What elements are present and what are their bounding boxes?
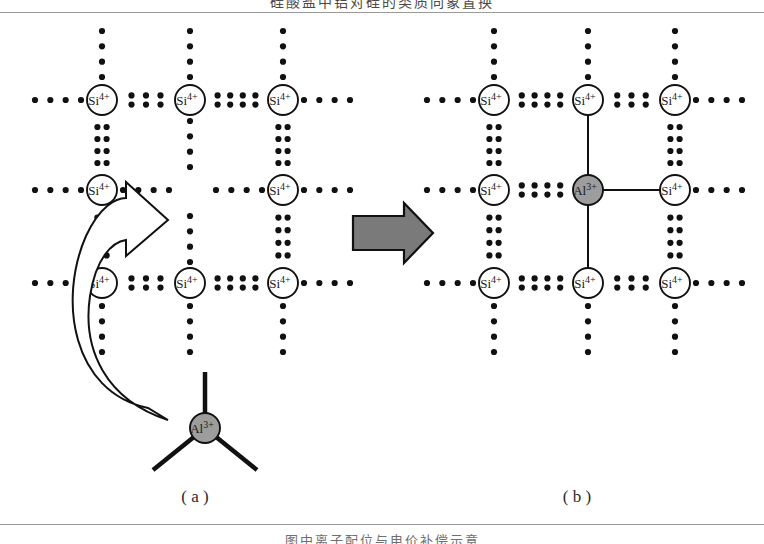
atom-si[interactable]: Si4+ <box>268 268 298 298</box>
bond-dot <box>677 160 683 166</box>
dotted-bond-tail-vertical <box>585 28 591 80</box>
atom-si[interactable]: Si4+ <box>479 268 509 298</box>
bond-dot <box>275 124 281 130</box>
dotted-bond-tail-vertical <box>280 303 286 355</box>
bond-dot <box>128 275 134 281</box>
bond-dot <box>585 59 591 65</box>
dotted-bond-tail-horizontal <box>693 97 745 103</box>
bond-dot <box>240 275 246 281</box>
bond-dot <box>739 187 745 193</box>
bond-dot <box>47 187 53 193</box>
atom-al[interactable]: Al3+ <box>573 175 603 205</box>
bond-dot <box>259 187 265 193</box>
bond-dot <box>285 227 291 233</box>
dotted-bond-vertical <box>667 215 682 259</box>
bond-dot <box>544 192 550 198</box>
atom-si[interactable]: Si4+ <box>268 85 298 115</box>
bond-dot <box>693 97 699 103</box>
bond-dot <box>128 102 134 108</box>
atom-al[interactable]: Al3+ <box>190 413 220 443</box>
atom-si[interactable]: Si4+ <box>573 268 603 298</box>
bond-dot <box>585 28 591 34</box>
dotted-bond-tail-horizontal <box>693 187 745 193</box>
bond-dot <box>94 148 100 154</box>
dotted-bond-tail-horizontal <box>32 97 84 103</box>
bond-dot <box>532 102 538 108</box>
atom-si[interactable]: Si4+ <box>660 268 690 298</box>
bond-dot <box>285 136 291 142</box>
bond-dot <box>486 227 492 233</box>
bond-dot <box>557 192 563 198</box>
bond-dot <box>99 303 105 309</box>
bond-dot <box>157 92 163 98</box>
bond-dot <box>585 318 591 324</box>
bond-dot <box>228 187 234 193</box>
bond-dot <box>672 349 678 355</box>
bond-dot <box>724 97 730 103</box>
bond-dot <box>285 148 291 154</box>
dotted-bond-horizontal <box>519 275 564 290</box>
bond-dot <box>667 252 673 258</box>
dotted-bond-tail-vertical <box>585 303 591 355</box>
dotted-bond-tail-vertical <box>99 303 105 355</box>
bond-dot <box>227 102 233 108</box>
bond-dot <box>643 92 649 98</box>
bond-dot <box>614 275 620 281</box>
bond-dot <box>99 334 105 340</box>
bond-dot <box>486 160 492 166</box>
bond-dot <box>708 280 714 286</box>
panel-b-caption: ( b ) <box>390 487 764 507</box>
atom-si[interactable]: Si4+ <box>268 175 298 205</box>
arrow-layer: Al3+ <box>73 182 433 470</box>
bond-dot <box>496 160 502 166</box>
dotted-bond-tail-horizontal <box>32 187 84 193</box>
dotted-bond-horizontal <box>215 275 259 290</box>
al-inset-unit[interactable]: Al3+ <box>153 372 257 470</box>
dotted-bond-horizontal <box>614 275 649 290</box>
bond-dot <box>347 187 353 193</box>
bond-dot <box>667 215 673 221</box>
atom-si[interactable]: Si4+ <box>175 268 205 298</box>
bond-dot <box>275 227 281 233</box>
atom-si[interactable]: Si4+ <box>660 85 690 115</box>
bond-dot <box>585 349 591 355</box>
dotted-bond-vertical <box>275 215 290 259</box>
bond-dot <box>99 318 105 324</box>
bond-dot <box>491 59 497 65</box>
bond-dot <box>544 102 550 108</box>
bond-dot <box>280 349 286 355</box>
atom-si[interactable]: Si4+ <box>660 175 690 205</box>
clipped-footer-text: 图中离子配位与电价补偿示意 <box>0 530 764 544</box>
atom-si[interactable]: Si4+ <box>479 85 509 115</box>
bond-dot <box>332 280 338 286</box>
dotted-bond-tail-vertical <box>99 28 105 80</box>
atom-si[interactable]: Si4+ <box>87 85 117 115</box>
bond-dot <box>614 102 620 108</box>
bond-dot <box>187 59 193 65</box>
bond-dot <box>215 102 221 108</box>
atom-si[interactable]: Si4+ <box>87 175 117 205</box>
atom-si[interactable]: Si4+ <box>175 85 205 115</box>
bond-dot <box>32 187 38 193</box>
bond-dot <box>557 182 563 188</box>
atom-si[interactable]: Si4+ <box>573 85 603 115</box>
bond-dot <box>585 303 591 309</box>
bond-dot <box>544 285 550 291</box>
dotted-bond-horizontal <box>614 92 649 107</box>
bond-dot <box>677 148 683 154</box>
atom-layer: Si4+Si4+Si4+Si4+Si4+Si4+Si4+Si4+Si4+Si4+… <box>87 85 690 298</box>
bond-dot <box>693 280 699 286</box>
bond-dot <box>104 148 110 154</box>
bond-dot <box>280 74 286 80</box>
bond-dot <box>285 252 291 258</box>
bond-dot <box>628 285 634 291</box>
bond-dot <box>677 215 683 221</box>
dotted-bond-tail-horizontal <box>693 280 745 286</box>
bond-dot <box>215 275 221 281</box>
dotted-bond-vertical <box>94 124 109 166</box>
atom-si[interactable]: Si4+ <box>479 175 509 205</box>
bond-dot <box>252 285 258 291</box>
transition-arrow <box>353 203 433 263</box>
bond-dot <box>708 187 714 193</box>
bond-dot <box>470 280 476 286</box>
